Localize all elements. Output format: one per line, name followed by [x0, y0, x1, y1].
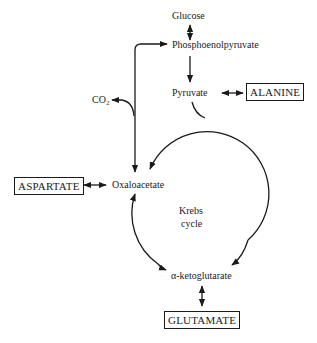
krebs-cycle-arc-left — [132, 194, 158, 264]
glutamate-box: GLUTAMATE — [164, 311, 240, 329]
aspartate-box: ASPARTATE — [14, 177, 84, 195]
pyruvate-krebs-arrow — [192, 102, 205, 118]
glutamate-label: GLUTAMATE — [168, 314, 236, 326]
pathway-arrows — [0, 0, 317, 343]
oxaloacetate-label: Oxaloacetate — [112, 179, 164, 191]
krebs-akg-arrow-left — [158, 264, 166, 270]
aspartate-label: ASPARTATE — [18, 180, 80, 192]
krebs-cycle-arc-top — [150, 132, 269, 240]
cycle-label: cycle — [181, 218, 202, 230]
glucose-label: Glucose — [172, 10, 205, 22]
pyruvate-label: Pyruvate — [172, 87, 208, 99]
co2-arrow — [112, 100, 134, 116]
co2-label: CO₂ — [92, 94, 109, 106]
phosphoenolpyruvate-label: Phosphoenolpyruvate — [172, 39, 259, 51]
alanine-label: ALANINE — [250, 86, 300, 98]
krebs-label: Krebs — [179, 205, 203, 217]
alpha-ketoglutarate-label: α-ketoglutarate — [171, 270, 232, 282]
alanine-box: ALANINE — [246, 83, 304, 101]
krebs-cycle-arc-right — [232, 240, 248, 265]
oxaloacetate-pep-arrow — [135, 44, 167, 118]
